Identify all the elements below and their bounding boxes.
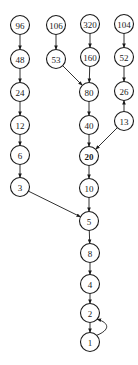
node-label: 80 (85, 88, 95, 98)
node-12: 12 (11, 116, 30, 135)
node-5: 5 (80, 212, 99, 231)
node-label: 96 (16, 21, 26, 31)
collatz-graph-diagram: 9648241263106533201608040201058421104522… (0, 0, 138, 365)
edges-layer (20, 34, 124, 336)
edge-arrow-3-to-5 (29, 191, 81, 217)
node-160: 160 (81, 48, 100, 67)
node-label: 8 (88, 249, 93, 259)
node-label: 6 (18, 151, 23, 161)
node-2: 2 (81, 304, 100, 323)
node-10: 10 (80, 179, 99, 198)
node-3: 3 (11, 178, 30, 197)
node-104: 104 (115, 15, 134, 34)
node-80: 80 (80, 83, 99, 102)
node-1: 1 (81, 333, 100, 352)
node-53: 53 (47, 50, 66, 69)
edge-arrow-53-to-80 (63, 66, 83, 86)
node-label: 20 (85, 152, 95, 162)
node-label: 40 (85, 121, 95, 131)
node-8: 8 (81, 244, 100, 263)
node-label: 52 (120, 53, 129, 63)
node-20: 20 (80, 147, 99, 166)
node-96: 96 (11, 16, 30, 35)
node-48: 48 (11, 50, 30, 69)
node-label: 3 (18, 183, 23, 193)
node-label: 104 (117, 20, 131, 30)
node-label: 53 (52, 55, 62, 65)
node-label: 4 (88, 280, 93, 290)
edge-arrow-13-to-20 (96, 128, 118, 150)
edge-arrow-1-to-2 (97, 319, 107, 335)
node-52: 52 (115, 48, 134, 67)
node-label: 106 (49, 21, 63, 31)
node-13: 13 (115, 112, 134, 131)
nodes-layer: 9648241263106533201608040201058421104522… (11, 15, 134, 352)
node-label: 24 (16, 88, 26, 98)
node-320: 320 (81, 15, 100, 34)
node-24: 24 (11, 83, 30, 102)
node-label: 26 (120, 87, 130, 97)
node-4: 4 (81, 275, 100, 294)
node-label: 12 (16, 121, 25, 131)
node-label: 160 (83, 53, 97, 63)
node-26: 26 (115, 82, 134, 101)
node-label: 5 (87, 217, 92, 227)
node-label: 2 (88, 309, 93, 319)
node-label: 13 (120, 117, 130, 127)
node-label: 10 (85, 184, 95, 194)
node-106: 106 (47, 16, 66, 35)
node-6: 6 (11, 146, 30, 165)
node-40: 40 (80, 116, 99, 135)
node-label: 320 (83, 20, 97, 30)
node-label: 48 (16, 55, 26, 65)
node-label: 1 (88, 338, 93, 348)
